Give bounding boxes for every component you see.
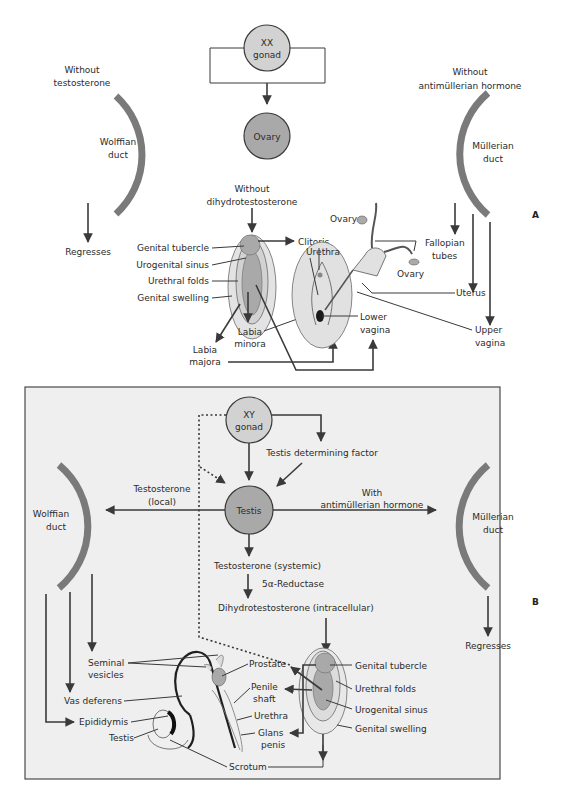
testosterone-local-line2: (local) (148, 497, 176, 507)
mullerian-duct-line2: duct (483, 154, 503, 164)
dht-condition-line1: Without (234, 184, 270, 194)
ovary-top-label: Ovary (330, 214, 358, 224)
upper-vagina-line2: vagina (475, 338, 505, 348)
a-urogenital-sinus: Urogenital sinus (136, 260, 209, 270)
amh-line1: With (362, 488, 382, 498)
panel-b-letter: B (532, 597, 539, 607)
wolffian-duct-b-line2: duct (46, 522, 66, 532)
a-urethral-folds: Urethral folds (148, 276, 209, 286)
labia-majora-line2: majora (189, 357, 221, 367)
testosterone-systemic: Testosterone (systemic) (213, 561, 321, 571)
glans-line2: penis (261, 740, 285, 750)
male-primordium (299, 648, 347, 734)
wolffian-duct-b-line1: Wolffian (33, 509, 69, 519)
panel-a: A XX gonad Ovary Without testosterone Wo… (54, 25, 539, 370)
a-genital-swelling: Genital swelling (137, 293, 209, 303)
testis-label: Testis (108, 733, 134, 743)
labia-minora-line1: Labia (238, 327, 262, 337)
wolffian-duct-line2: duct (108, 150, 128, 160)
vas-deferens-label: Vas deferens (64, 696, 122, 706)
penile-shaft-line1: Penile (251, 682, 278, 692)
testis-node-label: Testis (236, 506, 262, 516)
panel-a-letter: A (532, 210, 539, 220)
mullerian-duct-line1: Müllerian (472, 141, 513, 151)
reductase-label: 5α-Reductase (262, 579, 324, 589)
urethra-label-b: Urethra (254, 711, 288, 721)
wolffian-duct-line1: Wolffian (100, 137, 136, 147)
scrotum-label: Scrotum (229, 762, 267, 772)
xx-gonad-node (244, 25, 290, 71)
penile-shaft-line2: shaft (253, 694, 276, 704)
wolffian-condition-line2: testosterone (54, 78, 111, 88)
lower-vagina-line1: Lower (360, 312, 387, 322)
fallopian-line1: Fallopian (425, 238, 465, 248)
fallopian-line2: tubes (432, 251, 457, 261)
testosterone-local-line1: Testosterone (132, 484, 191, 494)
glans-line1: Glans (258, 728, 284, 738)
urethra-label-a: Urethra (306, 247, 340, 257)
folds-to-penile-shaft-arrow (285, 689, 312, 690)
dht-intracellular: Dihydrotestosterone (intracellular) (218, 603, 374, 613)
tdf-label: Testis determining factor (265, 448, 378, 458)
prostate-label: Prostate (249, 659, 287, 669)
lower-vagina-line2: vagina (360, 325, 390, 335)
mullerian-duct-b-line1: Müllerian (472, 512, 513, 522)
epididymis-label: Epididymis (79, 717, 128, 727)
ovary-node-label: Ovary (254, 132, 282, 142)
mullerian-fate: Regresses (465, 641, 511, 651)
female-external-genitalia (292, 242, 352, 348)
dht-condition-line2: dihydrotestosterone (207, 197, 298, 207)
ovary-bottom-label: Ovary (397, 269, 425, 279)
seminal-vesicles-line1: Seminal (88, 658, 124, 668)
labia-minora-line2: minora (234, 339, 266, 349)
labia-majora-line1: Labia (193, 345, 217, 355)
xy-gonad-label: XY (243, 410, 255, 420)
panel-b: B XY gonad Testis determining factor Tes… (25, 387, 539, 779)
mullerian-condition-line1: Without (452, 67, 488, 77)
sexual-differentiation-diagram: A XX gonad Ovary Without testosterone Wo… (0, 0, 561, 793)
xy-gonad-sub: gonad (235, 422, 263, 432)
seminal-vesicles-line2: vesicles (88, 670, 124, 680)
b-urethral-folds: Urethral folds (355, 684, 416, 694)
b-genital-tubercle: Genital tubercle (355, 661, 428, 671)
mullerian-duct-b-line2: duct (483, 525, 503, 535)
xx-gonad-label: XX (261, 38, 273, 48)
female-primordium (228, 235, 276, 339)
upper-vagina-line1: Upper (475, 325, 503, 335)
b-genital-swelling: Genital swelling (355, 724, 427, 734)
xx-gonad-sub: gonad (253, 50, 281, 60)
wolffian-fate: Regresses (65, 247, 111, 257)
b-urogenital-sinus: Urogenital sinus (355, 705, 428, 715)
xy-gonad-node (226, 397, 272, 443)
amh-line2: antimüllerian hormone (321, 500, 424, 510)
wolffian-condition-line1: Without (64, 65, 100, 75)
mullerian-condition-line2: antimüllerian hormone (419, 81, 522, 91)
uterus-label: Uterus (456, 288, 486, 298)
a-genital-tubercle: Genital tubercle (137, 243, 210, 253)
